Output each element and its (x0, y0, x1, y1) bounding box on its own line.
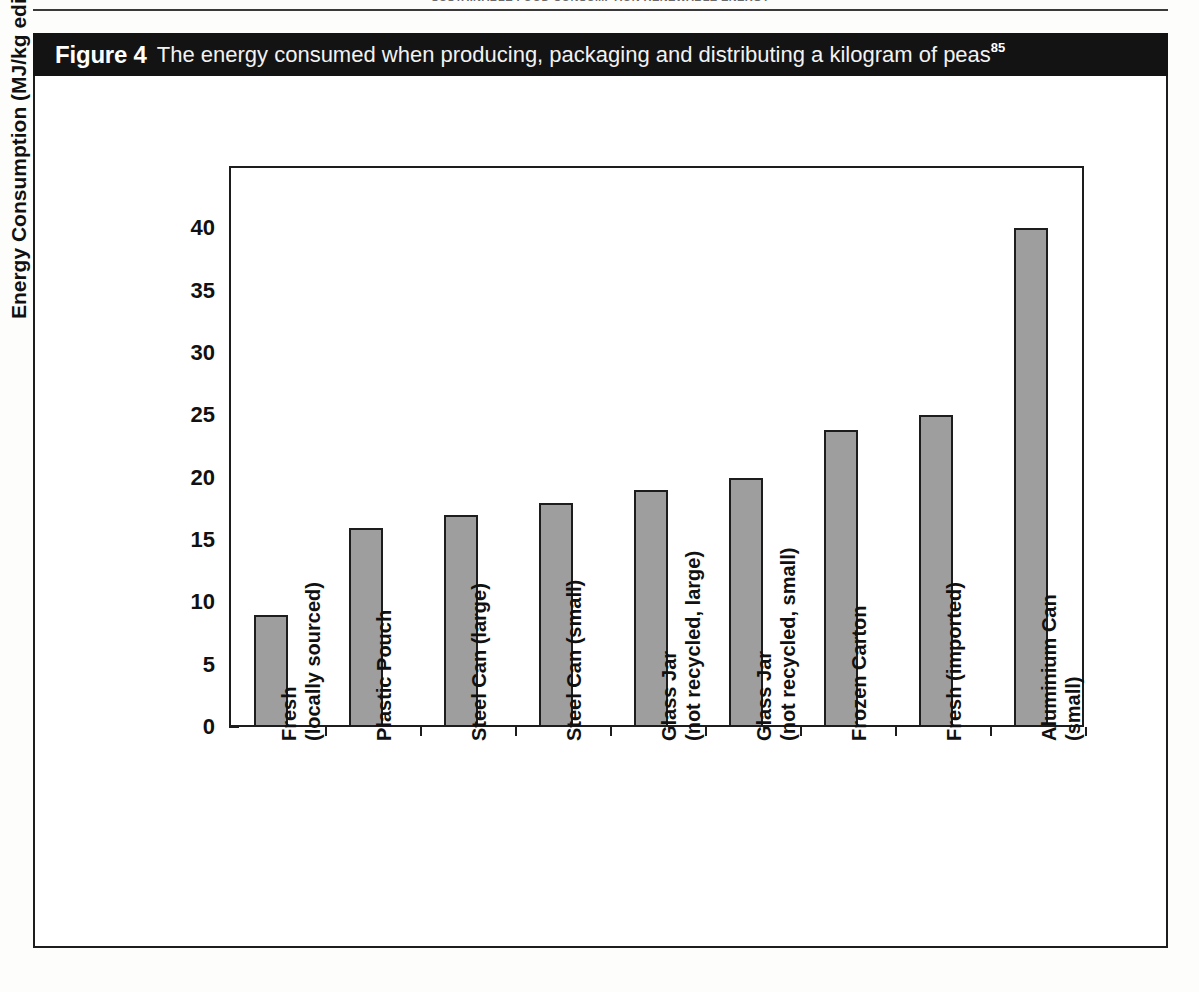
x-category-label: Steel Can (large) (468, 583, 492, 741)
x-category-label-line: Steel Can (small) (563, 580, 585, 741)
x-category-label-line: Plastic Pouch (373, 610, 395, 741)
y-axis-title: Energy Consumption (MJ/kg edible product… (7, 0, 31, 378)
x-category-label-line: (locally sourced) (301, 582, 325, 741)
x-category-label-line: Glass Jar (658, 651, 680, 741)
x-category-label-line: Steel Can (large) (468, 583, 490, 741)
chart-area: Energy Consumption (MJ/kg edible product… (35, 78, 1166, 946)
x-tick-mark (325, 727, 327, 736)
y-tick-label: 10 (169, 589, 215, 615)
x-category-label: Fresh(locally sourced) (278, 582, 325, 741)
figure-container: Figure 4 The energy consumed when produc… (33, 33, 1168, 948)
y-tick-label: 20 (169, 465, 215, 491)
x-tick-mark (990, 727, 992, 736)
x-tick-mark (610, 727, 612, 736)
x-category-label: Frozen Carton (848, 605, 872, 741)
figure-caption-bar: Figure 4 The energy consumed when produc… (33, 33, 1168, 76)
x-category-label-line: Fresh (imported) (943, 582, 965, 741)
running-header-rule (33, 9, 1168, 11)
y-tick-label: 25 (169, 402, 215, 428)
x-tick-mark (515, 727, 517, 736)
x-tick-mark (420, 727, 422, 736)
y-tick-label: 5 (169, 652, 215, 678)
running-header-text: SUSTAINABLE FOOD CONSUMPTION RENEWABLE E… (33, 0, 1168, 3)
x-category-label: Glass Jar(not recycled, small) (753, 548, 800, 741)
x-category-label-line: Glass Jar (753, 651, 775, 741)
y-tick-label: 40 (169, 215, 215, 241)
x-category-label-line: Aluminium Can (1038, 594, 1060, 741)
x-tick-mark (705, 727, 707, 736)
y-tick-label: 30 (169, 340, 215, 366)
figure-reference-superscript: 85 (991, 40, 1005, 55)
running-header: SUSTAINABLE FOOD CONSUMPTION RENEWABLE E… (33, 0, 1168, 14)
x-category-label-line: (small) (1061, 594, 1085, 741)
x-category-label: Fresh (imported) (943, 582, 967, 741)
x-category-label-line: Fresh (278, 687, 300, 741)
x-tick-mark (1085, 727, 1087, 736)
x-category-label: Glass Jar(not recycled, large) (658, 551, 705, 741)
figure-caption-text: The energy consumed when producing, pack… (157, 42, 991, 68)
x-category-label: Plastic Pouch (373, 610, 397, 741)
figure-page: SUSTAINABLE FOOD CONSUMPTION RENEWABLE E… (0, 0, 1199, 992)
x-tick-mark (895, 727, 897, 736)
y-tick-label: 15 (169, 527, 215, 553)
x-category-label: Aluminium Can(small) (1038, 594, 1085, 741)
x-category-label-line: Frozen Carton (848, 605, 870, 741)
y-tick-label: 0 (169, 714, 215, 740)
x-category-label-line: (not recycled, large) (681, 551, 705, 741)
figure-number: Figure 4 (55, 41, 147, 69)
y-tick-label: 35 (169, 278, 215, 304)
x-category-label-line: (not recycled, small) (776, 548, 800, 741)
x-tick-mark (800, 727, 802, 736)
x-category-label: Steel Can (small) (563, 580, 587, 741)
